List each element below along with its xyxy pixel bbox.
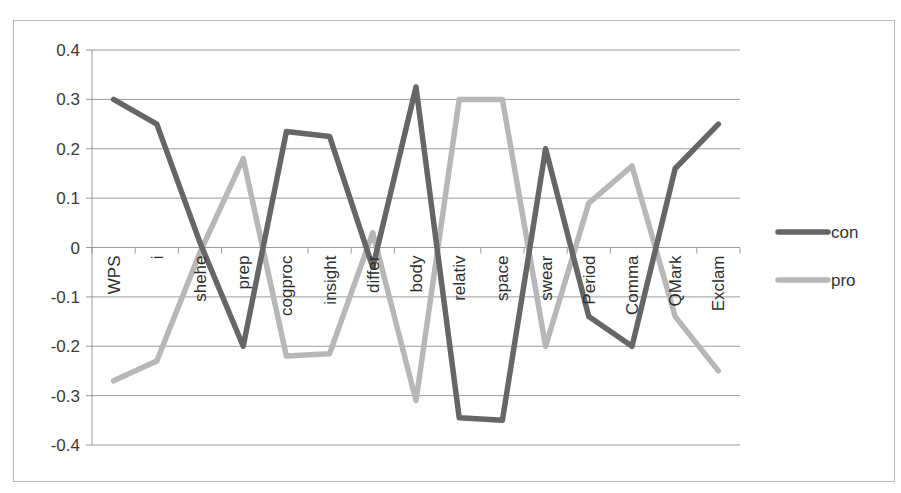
line-chart: 0.40.30.20.10-0.1-0.2-0.3-0.4 WPSishehep…	[0, 0, 901, 493]
category-label: relativ	[450, 255, 469, 301]
category-label: differ	[364, 255, 383, 293]
category-label: body	[407, 255, 426, 292]
y-tick-label: -0.4	[51, 436, 80, 455]
y-tick-label: 0.3	[56, 90, 80, 109]
legend-label-con: con	[831, 223, 858, 242]
category-label: Comma	[623, 255, 642, 315]
category-label: WPS	[105, 256, 124, 295]
series-layer	[114, 87, 719, 420]
x-axis	[92, 248, 740, 254]
y-tick-label: 0.4	[56, 41, 80, 60]
category-labels: WPSisheheprepcogprocinsightdifferbodyrel…	[105, 255, 729, 316]
category-label: i	[148, 256, 167, 260]
y-tick-label: -0.1	[51, 288, 80, 307]
series-line-con	[114, 87, 719, 420]
legend-label-pro: pro	[831, 271, 856, 290]
category-label: prep	[234, 256, 253, 290]
y-tick-label: 0.1	[56, 189, 80, 208]
category-label: QMark	[666, 255, 685, 307]
y-tick-label: 0.2	[56, 140, 80, 159]
y-tick-label: -0.3	[51, 387, 80, 406]
y-tick-label: 0	[71, 239, 80, 258]
y-axis: 0.40.30.20.10-0.1-0.2-0.3-0.4	[51, 41, 92, 455]
category-label: cogproc	[277, 255, 296, 316]
category-label: space	[493, 256, 512, 301]
y-tick-label: -0.2	[51, 337, 80, 356]
category-label: Period	[580, 256, 599, 305]
category-label: shehe	[191, 256, 210, 302]
category-label: insight	[321, 255, 340, 304]
legend: conpro	[778, 223, 858, 290]
category-label: Exclam	[709, 256, 728, 312]
category-label: swear	[537, 255, 556, 301]
